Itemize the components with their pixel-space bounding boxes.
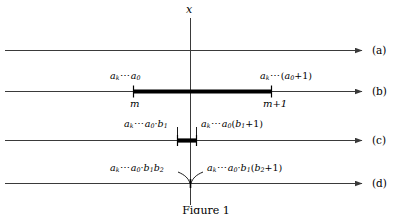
plus-one: +1 xyxy=(294,70,308,81)
paren-close: ) xyxy=(259,118,263,129)
label-b-left: ak⋯a0 xyxy=(110,71,141,81)
plus-one: +1 xyxy=(264,162,278,173)
leader-d-right xyxy=(191,172,203,183)
label-d-right: ak⋯a0·b1(b2+1) xyxy=(207,163,282,173)
sub-2: 2 xyxy=(160,166,164,173)
line-tag-c: (c) xyxy=(372,135,386,146)
sub-0: 0 xyxy=(137,74,141,81)
ellipsis: ⋯ xyxy=(269,70,280,81)
figure-container: x (a) (b) (c) (d) ak⋯a0 ak⋯(a0+1) m m+1 … xyxy=(0,0,412,214)
leader-d-left xyxy=(178,172,190,183)
line-tag-a: (a) xyxy=(372,45,386,56)
line-tag-b: (b) xyxy=(372,86,387,97)
label-c-right: ak⋯a0(b1+1) xyxy=(201,119,263,129)
plus-one: +1 xyxy=(245,118,259,129)
axis-label-x: x xyxy=(186,4,192,15)
ellipsis: ⋯ xyxy=(119,70,130,81)
ellipsis: ⋯ xyxy=(119,162,130,173)
label-d-left: ak⋯a0·b1b2 xyxy=(110,163,164,173)
endpoint-label-m: m xyxy=(130,99,139,109)
line-tag-d: (d) xyxy=(372,178,387,189)
ellipsis: ⋯ xyxy=(216,162,227,173)
label-c-left: ak⋯a0·b1 xyxy=(124,119,168,129)
sub-1: 1 xyxy=(164,122,168,129)
label-b-right: ak⋯(a0+1) xyxy=(260,71,312,81)
paren-close: ) xyxy=(278,162,282,173)
paren-close: ) xyxy=(308,70,312,81)
ellipsis: ⋯ xyxy=(210,118,221,129)
figure-caption: Figure 1 xyxy=(0,205,412,214)
diagram-graphics xyxy=(0,0,412,214)
ellipsis: ⋯ xyxy=(133,118,144,129)
endpoint-label-m-plus-1: m+1 xyxy=(263,99,287,109)
